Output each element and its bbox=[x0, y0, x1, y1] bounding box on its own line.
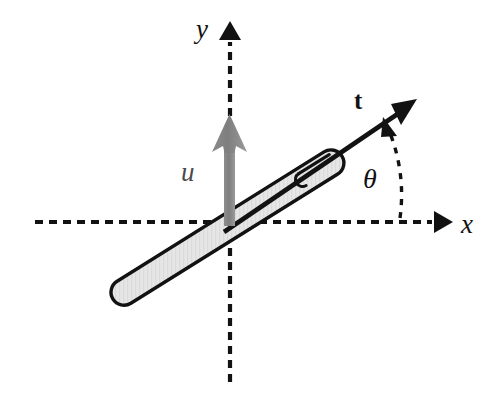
figure-canvas: y x u t θ bbox=[0, 0, 495, 404]
u-vector-arrowhead bbox=[212, 114, 247, 153]
t-vector-label: t bbox=[354, 88, 362, 113]
x-axis-arrowhead bbox=[434, 211, 453, 233]
theta-angle-label: θ bbox=[363, 165, 377, 193]
y-axis-label: y bbox=[196, 16, 208, 43]
y-axis-arrowhead bbox=[219, 21, 241, 40]
x-axis-label: x bbox=[461, 211, 473, 238]
u-vector-shaft bbox=[224, 148, 235, 226]
t-vector-group bbox=[224, 99, 417, 232]
diagram-svg bbox=[0, 0, 495, 404]
theta-arc-group bbox=[381, 117, 402, 218]
u-vector-label: u bbox=[181, 159, 195, 186]
theta-arc bbox=[390, 133, 402, 218]
t-vector-arrowhead bbox=[391, 99, 417, 125]
